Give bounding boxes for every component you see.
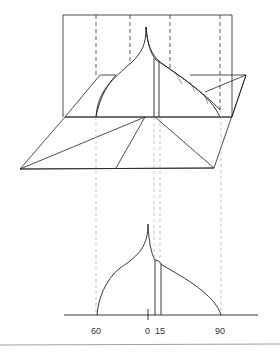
dome-surface-top <box>96 27 220 117</box>
axis-labels: 60 0 15 90 <box>91 326 225 336</box>
vertical-plane <box>63 15 232 117</box>
svg-text:0: 0 <box>145 326 150 336</box>
footer-rule <box>0 344 280 345</box>
projection-diagram: 60 0 15 90 <box>0 0 280 352</box>
profile-view <box>64 224 258 320</box>
projection-lines-bottom <box>96 110 221 315</box>
svg-text:60: 60 <box>91 326 101 336</box>
svg-text:15: 15 <box>155 326 165 336</box>
svg-text:90: 90 <box>215 326 225 336</box>
ground-plane <box>20 75 246 169</box>
projection-lines-top <box>96 15 220 110</box>
